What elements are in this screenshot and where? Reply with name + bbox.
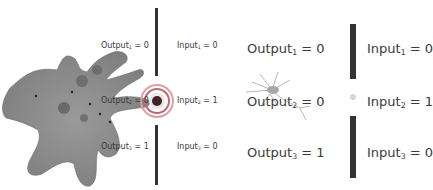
amoeba-image bbox=[2, 48, 152, 188]
output-3-label: Output3 = 1 bbox=[247, 145, 325, 161]
output-2-label: Output2 = 0 bbox=[247, 94, 325, 110]
neuron-panel: Output1 = 0 Output2 = 0 Output3 = 1 Inpu… bbox=[220, 0, 433, 190]
signal-source-icon bbox=[350, 94, 356, 100]
barrier-bottom bbox=[350, 116, 356, 178]
output-3-label: Output3 = 1 bbox=[101, 142, 149, 151]
input-2-label: Input2 = 1 bbox=[177, 96, 218, 105]
input-3-label: Input3 = 0 bbox=[367, 145, 433, 161]
barrier-top bbox=[155, 8, 158, 76]
amoeba-panel: Output1 = 0 Output2 = 0 Output3 = 1 Inpu… bbox=[0, 0, 220, 190]
input-1-label: Input1 = 0 bbox=[367, 41, 433, 57]
output-1-label: Output1 = 0 bbox=[101, 41, 149, 50]
barrier-bottom bbox=[155, 125, 158, 185]
input-3-label: Input3 = 0 bbox=[177, 142, 218, 151]
input-1-label: Input1 = 0 bbox=[177, 41, 218, 50]
output-1-label: Output1 = 0 bbox=[247, 41, 325, 57]
output-2-label: Output2 = 0 bbox=[101, 96, 149, 105]
input-2-label: Input2 = 1 bbox=[367, 94, 433, 110]
barrier-top bbox=[350, 24, 356, 79]
